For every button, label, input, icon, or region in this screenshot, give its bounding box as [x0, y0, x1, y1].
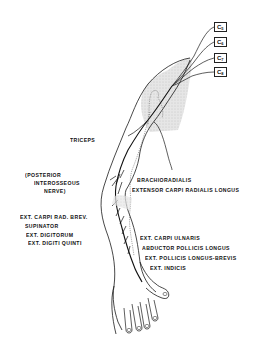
diagram-canvas: C5 C6 C7 C8 TRICEPS (POSTERIOR INTEROSSE…: [0, 0, 271, 348]
label-supinator: SUPINATOR: [25, 224, 59, 230]
label-abductor-pollicis-longus: ABDUCTOR POLLICIS LONGUS: [142, 246, 230, 252]
root-box-c6: C6: [214, 37, 227, 47]
elbow-branches: [110, 170, 130, 254]
root-box-c7: C7: [214, 53, 227, 63]
label-ext-digitorum: EXT. DIGITORUM: [26, 233, 73, 239]
label-ext-indicis: EXT. INDICIS: [150, 266, 186, 272]
hand-outline: [113, 262, 169, 330]
label-extensor-carpi-radialis-longus: EXTENSOR CARPI RADIALIS LONGUS: [132, 188, 239, 194]
root-number: 6: [221, 41, 223, 46]
label-ext-digiti-quinti: EXT. DIGITI QUINTI: [28, 241, 82, 247]
elbow-stipple: [112, 195, 132, 210]
label-posterior-interosseous-1: (POSTERIOR: [25, 173, 61, 179]
label-triceps: TRICEPS: [70, 138, 95, 144]
root-box-c8: C8: [214, 67, 227, 77]
root-number: 8: [221, 71, 223, 76]
label-posterior-interosseous-2: INTEROSSEOUS: [34, 181, 80, 187]
label-ext-carpi-ulnaris: EXT. CARPI ULNARIS: [140, 236, 200, 242]
label-ext-pollicis-longus-brevis: EXT. POLLICIS LONGUS-BREVIS: [145, 256, 237, 262]
root-number: 7: [221, 57, 223, 62]
label-ext-carpi-rad-brev: EXT. CARPI RAD. BREV.: [20, 215, 88, 221]
root-box-c5: C5: [214, 22, 227, 32]
label-brachioradialis: BRACHIORADIALIS: [137, 178, 192, 184]
root-number: 5: [221, 26, 223, 31]
label-posterior-interosseous-3: NERVE): [44, 189, 66, 195]
